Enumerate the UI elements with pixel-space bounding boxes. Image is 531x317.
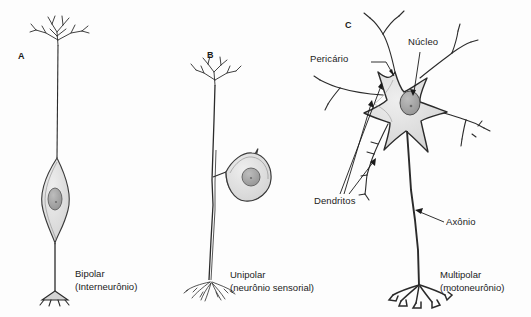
neuron-types-diagram: A B C Pericário Núcleo Dendritos Axônio … [0,0,531,317]
unipolar-nucleolus [250,177,252,179]
panel-letter-b: B [207,50,214,60]
label-nucleo: Núcleo [408,36,438,48]
unipolar-dendrite-tree [191,56,241,85]
label-pericario: Pericário [310,53,348,65]
caption-bipolar-sub: (Interneurônio) [75,281,137,294]
bipolar-dendrite-tree [30,16,89,45]
caption-unipolar-sub: (neurônio sensorial) [230,282,314,295]
multipolar-nucleus [400,91,420,115]
dendritos-leader-2 [344,104,371,194]
bipolar-nucleus [48,188,62,210]
panel-letter-a: A [18,51,25,61]
unipolar-main-process [209,85,215,280]
caption-multipolar-name: Multipolar [440,269,504,282]
caption-unipolar-name: Unipolar [230,269,314,282]
dendritos-arrowhead-2 [368,100,374,108]
multipolar-axon [407,131,419,285]
label-axonio: Axônio [446,216,476,228]
multipolar-nucleolus [410,105,413,108]
caption-bipolar: Bipolar (Interneurônio) [75,268,137,293]
multipolar-upper-dendrites [364,11,404,72]
label-dendritos: Dendritos [314,195,356,207]
caption-unipolar: Unipolar (neurônio sensorial) [230,269,314,294]
bipolar-nucleolus [55,201,57,203]
multipolar-upper-dendrite-right [420,24,478,78]
bipolar-upper-process [57,45,58,158]
neuron-unipolar [184,56,271,301]
unipolar-axon-terminal [184,282,235,301]
neuron-bipolar [30,16,89,306]
bipolar-axon-terminal [40,291,69,306]
pericario-arrowhead [389,69,394,76]
axonio-leader-line [420,212,444,222]
caption-multipolar-sub: (motoneurônio) [440,282,504,295]
caption-bipolar-name: Bipolar [75,268,137,281]
caption-multipolar: Multipolar (motoneurônio) [440,269,504,294]
panel-letter-c: C [345,20,352,30]
